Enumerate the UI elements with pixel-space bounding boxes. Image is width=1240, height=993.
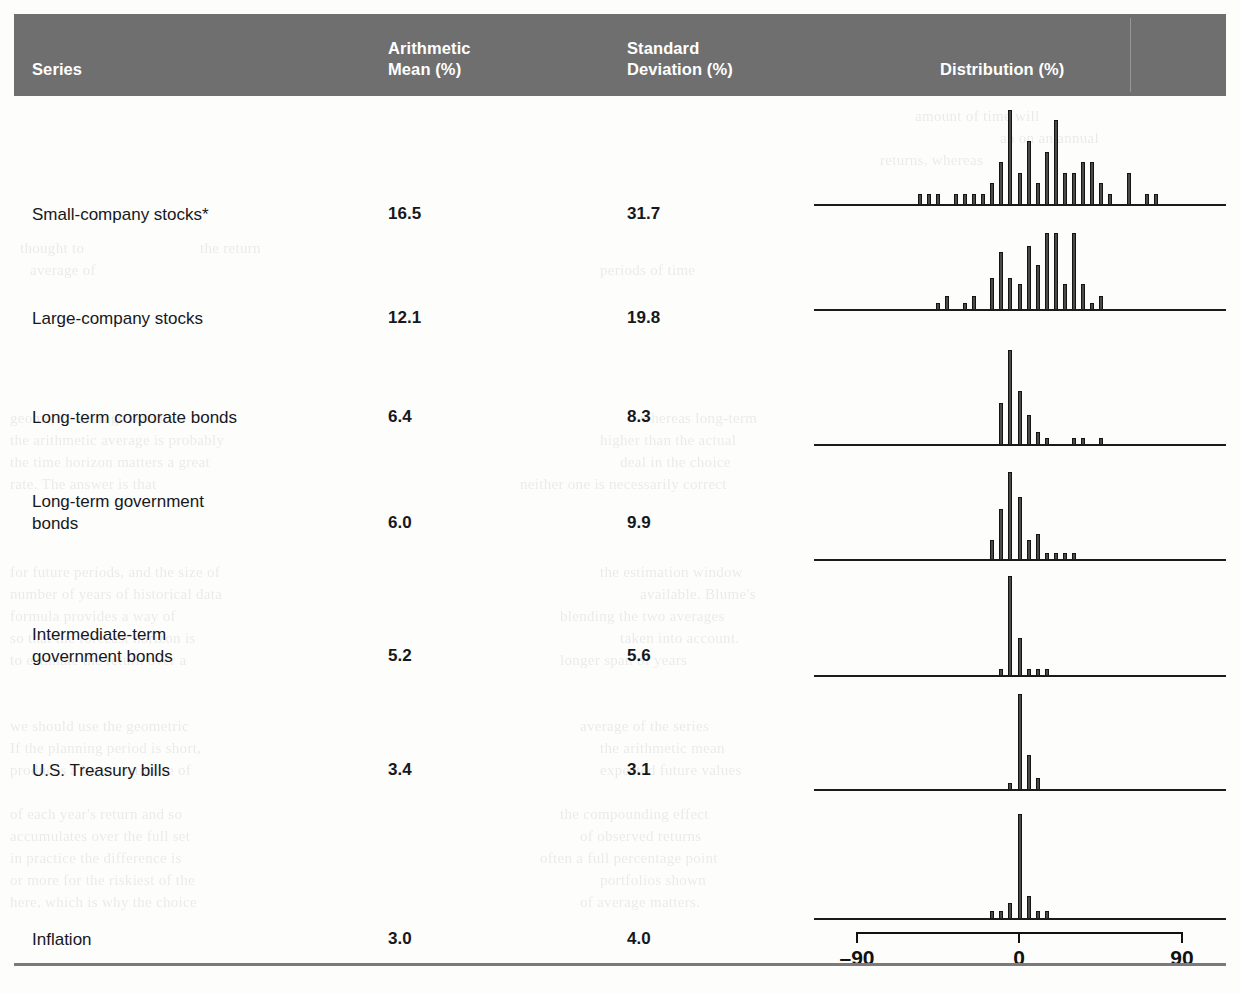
histogram-bar xyxy=(1063,284,1067,309)
column-header-arithmetic-mean-line1: Arithmetic xyxy=(388,38,471,59)
histogram-bar xyxy=(1036,669,1040,675)
row-sd-large-company-stocks: 19.8 xyxy=(627,308,660,328)
histogram-inflation xyxy=(814,800,1226,932)
column-header-arithmetic-mean: Arithmetic Mean (%) xyxy=(388,38,471,80)
histogram-bar xyxy=(999,669,1003,675)
axis-label-max: 90 xyxy=(1170,946,1193,970)
histogram-long-term-corporate-bonds xyxy=(814,339,1226,455)
axis-tick-min xyxy=(856,932,858,943)
histogram-bar xyxy=(1036,534,1040,559)
column-header-standard-deviation: Standard Deviation (%) xyxy=(627,38,733,80)
row-mean-long-term-government-bonds: 6.0 xyxy=(388,513,412,533)
histogram-bar xyxy=(1008,278,1012,310)
histogram-bar xyxy=(1018,694,1022,789)
histogram-bar xyxy=(1018,638,1022,675)
axis-tick-max xyxy=(1181,932,1183,943)
row-mean-long-term-corporate-bonds: 6.4 xyxy=(388,407,412,427)
distribution-x-axis: –90 0 90 xyxy=(814,932,1226,976)
histogram-bar xyxy=(1008,110,1012,205)
histogram-bar xyxy=(1027,415,1031,445)
histogram-bar xyxy=(1018,284,1022,309)
histogram-bar xyxy=(1045,669,1049,675)
histogram-bar xyxy=(1036,911,1040,918)
row-sd-us-treasury-bills: 3.1 xyxy=(627,760,651,780)
axis-tick-zero xyxy=(1018,932,1020,943)
histogram-bar xyxy=(1045,553,1049,559)
histogram-bar xyxy=(1008,472,1012,559)
histogram-bar xyxy=(999,403,1003,444)
histogram-bar xyxy=(1054,120,1058,204)
histogram-baseline xyxy=(814,309,1226,311)
histogram-baseline xyxy=(814,918,1226,920)
histogram-intermediate-term-government-bonds xyxy=(814,568,1226,685)
histogram-bar xyxy=(1008,783,1012,789)
histogram-bar xyxy=(963,303,967,309)
axis-label-min: –90 xyxy=(839,946,874,970)
histogram-bar xyxy=(1108,194,1112,205)
row-label-inflation: Inflation xyxy=(32,929,92,951)
row-mean-us-treasury-bills: 3.4 xyxy=(388,760,412,780)
column-header-distribution: Distribution (%) xyxy=(940,59,1064,80)
histogram-long-term-government-bonds xyxy=(814,455,1226,568)
histogram-bar xyxy=(1008,903,1012,918)
histogram-bar xyxy=(1081,162,1085,204)
row-label-long-term-government-bonds: Long-term government bonds xyxy=(32,491,204,535)
row-label-large-company-stocks: Large-company stocks xyxy=(32,308,203,330)
histogram-bar xyxy=(1045,911,1049,918)
histogram-bar xyxy=(1018,497,1022,559)
histogram-bar xyxy=(1027,540,1031,559)
histogram-bar xyxy=(1081,284,1085,309)
column-header-series: Series xyxy=(32,59,82,80)
row-sd-intermediate-term-government-bonds: 5.6 xyxy=(627,646,651,666)
histogram-bar xyxy=(990,183,994,204)
histogram-bar xyxy=(936,303,940,309)
histogram-bar xyxy=(1099,183,1103,204)
histogram-bar xyxy=(1018,391,1022,444)
column-header-standard-deviation-line1: Standard xyxy=(627,38,733,59)
histogram-bar xyxy=(1063,173,1067,205)
histogram-bar xyxy=(1090,162,1094,204)
histogram-bar xyxy=(1063,553,1067,559)
histogram-baseline xyxy=(814,444,1226,446)
row-sd-inflation: 4.0 xyxy=(627,929,651,949)
histogram-baseline xyxy=(814,559,1226,561)
histogram-bar xyxy=(1027,669,1031,675)
histogram-bar xyxy=(999,252,1003,309)
histogram-bar xyxy=(981,194,985,205)
histogram-large-company-stocks xyxy=(814,219,1226,319)
histogram-bar xyxy=(1072,553,1076,559)
histogram-us-treasury-bills xyxy=(814,685,1226,800)
row-mean-large-company-stocks: 12.1 xyxy=(388,308,421,328)
row-label-small-company-stocks: Small-company stocks* xyxy=(32,204,209,226)
column-header-arithmetic-mean-line2: Mean (%) xyxy=(388,59,471,80)
historical-returns-table: Series Arithmetic Mean (%) Standard Devi… xyxy=(14,14,1226,966)
histogram-bar xyxy=(999,911,1003,918)
histogram-bar xyxy=(972,296,976,309)
histogram-bar xyxy=(972,194,976,205)
histogram-bar xyxy=(1099,438,1103,444)
histogram-bar xyxy=(999,509,1003,559)
histogram-bar xyxy=(1027,246,1031,309)
histogram-bar xyxy=(945,296,949,309)
histogram-bar xyxy=(927,194,931,205)
histogram-bar xyxy=(1008,576,1012,675)
histogram-bar xyxy=(963,194,967,205)
histogram-bar xyxy=(1045,233,1049,309)
histogram-bar xyxy=(1027,755,1031,789)
histogram-bar xyxy=(1072,233,1076,309)
histogram-bar xyxy=(990,911,994,918)
histogram-bar xyxy=(1054,553,1058,559)
histogram-bar xyxy=(1045,152,1049,205)
histogram-bar xyxy=(999,162,1003,204)
histogram-small-company-stocks xyxy=(814,94,1226,219)
histogram-bar xyxy=(918,194,922,205)
histogram-bar xyxy=(1036,265,1040,309)
row-sd-long-term-corporate-bonds: 8.3 xyxy=(627,407,651,427)
histogram-bar xyxy=(954,194,958,205)
header-vertical-divider xyxy=(1130,18,1131,92)
histogram-bar xyxy=(1127,173,1131,205)
histogram-bar xyxy=(1145,194,1149,205)
histogram-bar xyxy=(1027,141,1031,204)
histogram-bar xyxy=(1090,303,1094,309)
histogram-bar xyxy=(1099,296,1103,309)
